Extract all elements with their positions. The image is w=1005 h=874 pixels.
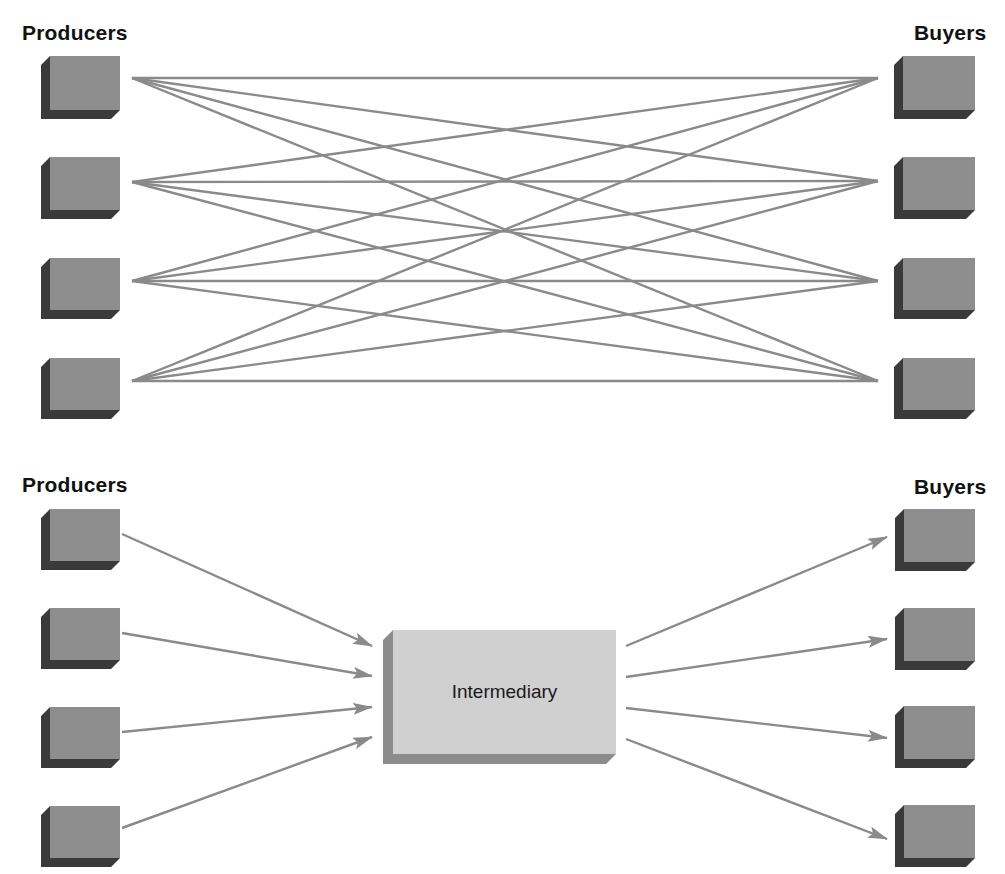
direct-connections [132, 78, 878, 381]
bottom-producer-boxes [41, 509, 120, 867]
top-producer-boxes [41, 56, 120, 419]
bottom-buyer-boxes [895, 509, 975, 867]
producer-box-3 [41, 707, 120, 768]
intermediary-to-buyer-arrows [626, 537, 887, 839]
buyer-box-3 [894, 258, 975, 319]
buyer-box-2 [895, 608, 975, 670]
intermediary-label: Intermediary [393, 630, 616, 754]
producer-to-intermediary-arrows [122, 534, 372, 828]
producer-box-4 [41, 806, 120, 867]
producer-box-1 [41, 56, 120, 119]
top-buyers-label: Buyers [914, 22, 986, 43]
distribution-diagram: Producers Buyers Producers Buyers Interm… [0, 0, 1005, 874]
buyer-box-1 [895, 509, 975, 571]
buyer-box-2 [894, 157, 975, 219]
top-producers-label: Producers [22, 22, 128, 43]
buyer-box-1 [894, 56, 975, 119]
producer-box-4 [41, 358, 120, 419]
buyer-box-3 [895, 706, 975, 768]
top-buyer-boxes [894, 56, 975, 419]
producer-box-2 [41, 157, 120, 219]
producer-box-1 [41, 509, 120, 570]
producer-box-3 [41, 258, 120, 319]
buyer-box-4 [894, 358, 975, 419]
bottom-producers-label: Producers [22, 474, 128, 495]
bottom-buyers-label: Buyers [914, 476, 986, 497]
producer-box-2 [41, 608, 120, 669]
buyer-box-4 [895, 805, 975, 867]
